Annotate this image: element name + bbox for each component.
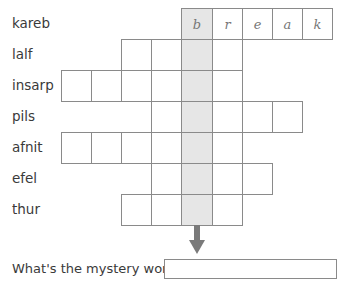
letter-cell[interactable]	[212, 194, 243, 226]
mystery-letter-cell[interactable]	[181, 101, 213, 133]
clue-label: pils	[12, 101, 35, 132]
letter-cell[interactable]	[121, 194, 152, 226]
letter-cell[interactable]	[212, 101, 243, 133]
mystery-letter-cell[interactable]	[181, 70, 213, 102]
letter-cell[interactable]	[121, 132, 152, 164]
mystery-letter-cell[interactable]	[181, 39, 213, 71]
letter-cell[interactable]	[151, 101, 182, 133]
letter-cell: r	[212, 8, 243, 40]
letter-cell[interactable]	[272, 101, 303, 133]
mystery-letter-cell[interactable]	[181, 194, 213, 226]
arrow-down-icon	[194, 225, 200, 241]
letter-cell[interactable]	[121, 70, 152, 102]
clue-label: insarp	[12, 70, 54, 101]
clue-label: efel	[12, 163, 37, 194]
mystery-letter-cell[interactable]	[181, 132, 213, 164]
letter-cell: a	[272, 8, 303, 40]
clue-label: afnit	[12, 132, 43, 163]
letter-cell[interactable]	[91, 132, 122, 164]
letter-cell[interactable]	[61, 132, 92, 164]
arrow-down-icon-head	[189, 240, 205, 254]
mystery-letter-cell: b	[181, 8, 213, 40]
clue-label: kareb	[12, 8, 50, 39]
letter-cell[interactable]	[151, 132, 182, 164]
mystery-word-question: What's the mystery word?	[12, 260, 182, 278]
mystery-word-input[interactable]	[164, 259, 337, 279]
letter-cell[interactable]	[91, 70, 122, 102]
letter-cell[interactable]	[151, 163, 182, 195]
letter-cell[interactable]	[242, 101, 273, 133]
letter-cell[interactable]	[212, 70, 243, 102]
letter-cell[interactable]	[151, 70, 182, 102]
letter-cell[interactable]	[212, 163, 243, 195]
letter-cell[interactable]	[151, 39, 182, 71]
letter-cell: e	[242, 8, 273, 40]
letter-cell[interactable]	[121, 39, 152, 71]
letter-cell[interactable]	[151, 194, 182, 226]
letter-cell[interactable]	[212, 39, 243, 71]
clue-label: lalf	[12, 39, 33, 70]
clue-label: thur	[12, 194, 40, 225]
letter-cell[interactable]	[61, 70, 92, 102]
mystery-letter-cell[interactable]	[181, 163, 213, 195]
letter-cell[interactable]	[212, 132, 243, 164]
letter-cell: k	[302, 8, 333, 40]
letter-cell[interactable]	[242, 163, 273, 195]
